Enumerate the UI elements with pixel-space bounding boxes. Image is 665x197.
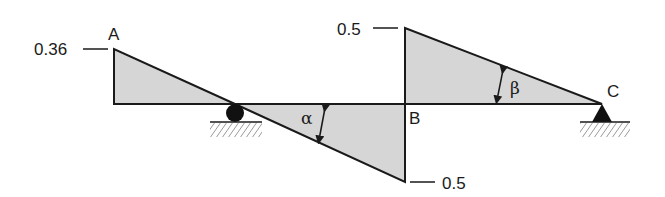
pin-support xyxy=(580,104,630,137)
alpha-label: α xyxy=(301,108,313,128)
point-a-value: 0.36 xyxy=(34,40,67,59)
point-a-label: A xyxy=(108,25,120,44)
region-a-positive xyxy=(114,49,235,104)
region-bc-positive xyxy=(405,28,602,104)
point-b-top-value: 0.5 xyxy=(337,20,361,39)
influence-line-diagram: A 0.36 B 0.5 0.5 C α β xyxy=(0,0,665,197)
region-b-negative xyxy=(235,104,405,182)
point-c-label: C xyxy=(607,82,619,101)
point-b-bottom-value: 0.5 xyxy=(442,174,466,193)
point-b-label: B xyxy=(409,109,420,128)
beta-label: β xyxy=(510,78,520,98)
